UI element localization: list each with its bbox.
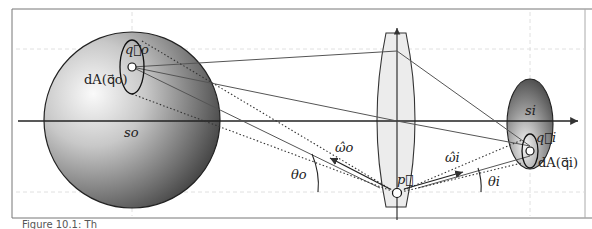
label-dA-qi: dA(q⃗i) — [538, 156, 578, 169]
label-s-o: so — [124, 126, 139, 139]
label-s-i: si — [525, 104, 536, 117]
point-p — [393, 189, 402, 198]
label-q-i: q⃗i — [536, 131, 556, 144]
object-sphere — [44, 32, 220, 208]
lens-diagram: q⃗o dA(q⃗o) so ω̂o θo p⃗ ω̂i θi si q⃗i d… — [0, 0, 592, 229]
figure-caption: Figure 10.1: Th — [22, 219, 97, 229]
label-q-o: q⃗o — [125, 43, 149, 56]
label-theta-i: θi — [488, 175, 500, 188]
point-q-o — [128, 63, 136, 71]
point-q-i — [526, 147, 534, 155]
label-omega-i: ω̂i — [445, 151, 460, 164]
label-omega-o: ω̂o — [335, 141, 353, 154]
label-theta-o: θo — [291, 168, 307, 181]
label-dA-qo: dA(q⃗o) — [84, 73, 128, 86]
label-p: p⃗ — [397, 173, 413, 186]
